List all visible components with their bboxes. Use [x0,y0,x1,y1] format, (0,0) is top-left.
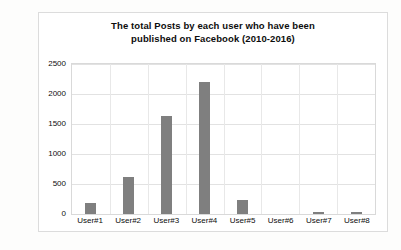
chart-title-line-2: published on Facebook (2010-2016) [39,32,387,45]
bar-slot [261,64,299,214]
x-axis-tick-label: User#7 [300,216,338,225]
chart-title-line-1: The total Posts by each user who have be… [39,19,387,32]
bar-slot [72,64,110,214]
y-axis-tick-label: 2000 [48,89,66,98]
bar [237,200,248,214]
x-axis-tick-label: User#5 [224,216,262,225]
chart-container: The total Posts by each user who have be… [38,12,388,232]
bar-slot [186,64,224,214]
chart-title: The total Posts by each user who have be… [39,19,387,45]
bar-slot [337,64,375,214]
y-axis-tick-label: 1000 [48,149,66,158]
x-axis: User#1User#2User#3User#4User#5User#6User… [71,216,376,225]
bar-slot [148,64,186,214]
bar-slot [299,64,337,214]
x-axis-tick-label: User#6 [262,216,300,225]
bar [313,212,324,214]
bar-series [72,64,375,214]
x-axis-tick-label: User#4 [185,216,223,225]
x-axis-tick-label: User#2 [109,216,147,225]
y-axis-tick-label: 500 [53,179,66,188]
bar [123,177,134,214]
bar-slot [110,64,148,214]
bar [351,212,362,214]
bar [85,203,96,214]
bar-slot [224,64,262,214]
bar [199,82,210,214]
plot-area [71,63,376,215]
bar [161,116,172,214]
y-axis: 05001000150020002500 [39,63,69,213]
x-axis-tick-label: User#3 [147,216,185,225]
x-axis-tick-label: User#1 [71,216,109,225]
y-axis-tick-label: 2500 [48,59,66,68]
y-axis-tick-label: 1500 [48,119,66,128]
x-axis-tick-label: User#8 [338,216,376,225]
y-axis-tick-label: 0 [62,209,66,218]
